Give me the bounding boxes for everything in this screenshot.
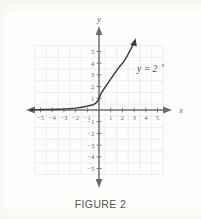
x-axis-label: x xyxy=(178,106,183,115)
equation-label: y = 2 xyxy=(136,63,158,74)
y-tick-label: 1 xyxy=(91,95,94,102)
x-tick-label: −2 xyxy=(72,114,79,121)
x-tick-label: −3 xyxy=(60,114,68,121)
y-tick-label: −2 xyxy=(87,130,94,137)
x-axis-arrow-right xyxy=(163,107,172,114)
x-tick-label: 5 xyxy=(156,114,160,121)
equation-annotation: y = 2 x xyxy=(136,61,165,74)
coordinate-plot: −5 −4 −3 −2 −1 1 2 3 4 5 5 4 3 2 1 −1 −2… xyxy=(0,0,201,219)
axes xyxy=(26,26,172,188)
y-tick-label: 3 xyxy=(91,71,95,78)
equation-exponent: x xyxy=(161,61,165,68)
y-tick-label: 5 xyxy=(91,48,95,55)
y-tick-label: −1 xyxy=(87,118,94,125)
y-tick-label: −5 xyxy=(87,165,95,172)
y-axis-arrow-down xyxy=(96,179,103,188)
x-tick-label: 3 xyxy=(132,114,136,121)
y-tick-label: 4 xyxy=(91,60,95,67)
x-tick-label: −5 xyxy=(37,114,45,121)
y-axis-label: y xyxy=(96,15,101,24)
x-tick-label: −4 xyxy=(49,114,57,121)
curve-arrowhead xyxy=(130,38,137,46)
y-tick-label: 2 xyxy=(91,83,94,90)
y-axis-arrow-up xyxy=(96,26,103,35)
y-tick-label: −3 xyxy=(87,142,95,149)
curve-left-terminus xyxy=(31,108,34,111)
figure-container: −5 −4 −3 −2 −1 1 2 3 4 5 5 4 3 2 1 −1 −2… xyxy=(0,0,201,219)
figure-caption: FIGURE 2 xyxy=(0,198,201,210)
x-tick-label: 4 xyxy=(144,114,148,121)
x-tick-label: 1 xyxy=(109,114,112,121)
x-tick-label: 2 xyxy=(121,114,124,121)
y-tick-label: −4 xyxy=(87,153,95,160)
